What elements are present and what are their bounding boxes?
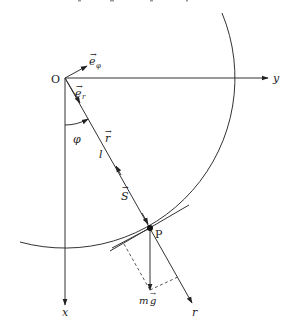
- point-p-dot: [147, 225, 153, 231]
- r-axis-label: r: [192, 306, 198, 319]
- point-p-label: P: [155, 228, 163, 241]
- e-phi-label: e → φ: [89, 50, 101, 70]
- e-phi-arrow: [65, 66, 87, 78]
- r-vector-label: r →: [105, 127, 112, 145]
- svg-text:→: →: [105, 127, 112, 136]
- svg-text:φ: φ: [96, 62, 101, 70]
- svg-text:→: →: [76, 82, 83, 91]
- tension-label: S →: [121, 183, 129, 203]
- origin-label: O: [51, 73, 60, 86]
- x-axis-label: x: [62, 306, 69, 319]
- phi-label: φ: [73, 133, 81, 146]
- svg-text:m: m: [139, 295, 148, 306]
- y-axis-label: y: [272, 72, 280, 85]
- dashed-component-tangential: [124, 244, 150, 290]
- circular-path-arc: [20, 13, 235, 248]
- tangent-line-2: [112, 228, 150, 248]
- e-r-label: e → r: [75, 82, 86, 101]
- tension-arrowhead: [142, 213, 148, 224]
- length-label: l: [99, 148, 103, 161]
- svg-text:→: →: [150, 290, 156, 298]
- phi-angle-arc: [65, 119, 88, 125]
- dashed-component-radial: [150, 276, 180, 290]
- weight-label: m g →: [139, 290, 156, 306]
- svg-text:→: →: [122, 183, 129, 192]
- svg-text:r: r: [82, 93, 86, 101]
- pendulum-diagram: O e → φ e → r y x φ r → l S → P m g → r: [0, 0, 288, 320]
- clipped-caption: [78, 0, 188, 2]
- svg-text:→: →: [90, 50, 97, 59]
